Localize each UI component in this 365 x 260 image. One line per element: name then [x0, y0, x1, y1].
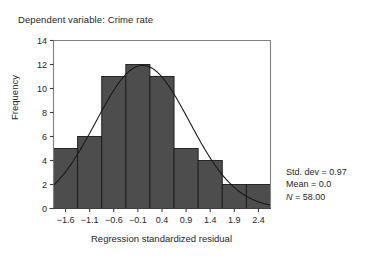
histogram-bar	[198, 161, 222, 209]
histogram-bar	[150, 77, 174, 209]
x-axis-tick-label: 1.4	[204, 215, 217, 225]
y-axis-tick-label: 4	[42, 156, 47, 166]
histogram-bar	[246, 185, 270, 209]
histogram-plot: 02468101214−1.6−1.1−0.6−0.10.40.91.41.92…	[0, 0, 365, 260]
n-value: = 58.00	[293, 192, 326, 202]
y-axis-tick-label: 10	[37, 84, 47, 94]
x-axis-title: Regression standardized residual	[53, 233, 270, 244]
histogram-bar	[174, 149, 198, 209]
histogram-bar	[126, 65, 150, 209]
histogram-bar	[54, 149, 78, 209]
y-axis-tick-label: 0	[42, 204, 47, 214]
chart-caption: Dependent variable: Crime rate	[18, 14, 153, 25]
x-axis-tick-label: 0.4	[156, 215, 169, 225]
y-axis-tick-label: 14	[37, 36, 47, 46]
x-axis-tick-label: −0.6	[105, 215, 123, 225]
mean-label: Mean = 0.0	[286, 178, 347, 190]
y-axis-tick-label: 2	[42, 180, 47, 190]
bars-group	[54, 65, 271, 209]
y-axis-tick-label: 8	[42, 108, 47, 118]
x-axis-tick-label: 0.9	[180, 215, 193, 225]
x-axis-tick-label: 1.9	[228, 215, 241, 225]
x-axis-tick-label: −1.6	[57, 215, 75, 225]
statistics-annotation: Std. dev = 0.97 Mean = 0.0 N = 58.00	[286, 166, 347, 203]
x-axis-tick-label: −0.1	[129, 215, 147, 225]
histogram-bar	[102, 77, 126, 209]
x-axis-tick-label: 2.4	[252, 215, 265, 225]
y-axis-tick-label: 12	[37, 60, 47, 70]
x-axis-tick-label: −1.1	[81, 215, 99, 225]
y-axis-tick-label: 6	[42, 132, 47, 142]
n-label: N = 58.00	[286, 191, 347, 203]
y-axis-title: Frequency	[9, 58, 20, 138]
std-dev-label: Std. dev = 0.97	[286, 166, 347, 178]
histogram-figure: Dependent variable: Crime rate Frequency…	[0, 0, 365, 260]
